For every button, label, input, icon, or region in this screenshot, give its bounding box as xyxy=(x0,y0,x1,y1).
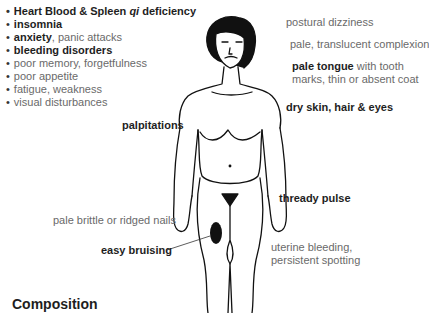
label-nails: pale brittle or ridged nails xyxy=(53,214,176,227)
label-palpitations: palpitations xyxy=(122,119,184,132)
list-item: anxiety, panic attacks xyxy=(6,31,196,44)
bruise-mark xyxy=(210,222,222,244)
label-easy-bruising: easy bruising xyxy=(101,244,172,257)
label-complexion: pale, translucent complexion xyxy=(290,38,429,51)
list-item-heading: Heart Blood & Spleen qi deficiency xyxy=(6,5,196,18)
list-item: poor memory, forgetfulness xyxy=(6,57,196,70)
label-dry-skin: dry skin, hair & eyes xyxy=(286,101,393,114)
label-tongue-line2: marks, thin or absent coat xyxy=(292,73,419,86)
list-item: bleeding disorders xyxy=(6,44,196,57)
bruising-leader-line xyxy=(167,236,210,250)
list-item: visual disturbances xyxy=(6,96,196,109)
list-item: poor appetite xyxy=(6,70,196,83)
label-persistent-spotting: persistent spotting xyxy=(271,254,360,267)
label-tongue: pale tongue with tooth xyxy=(292,60,404,73)
label-uterine-bleeding: uterine bleeding, xyxy=(271,241,352,254)
label-postural-dizziness: postural dizziness xyxy=(286,16,373,29)
composition-title: Composition xyxy=(12,296,98,312)
list-item: fatigue, weakness xyxy=(6,83,196,96)
label-thready-pulse: thready pulse xyxy=(279,192,351,205)
symptom-list: Heart Blood & Spleen qi deficiency insom… xyxy=(6,5,196,109)
list-item: insomnia xyxy=(6,18,196,31)
